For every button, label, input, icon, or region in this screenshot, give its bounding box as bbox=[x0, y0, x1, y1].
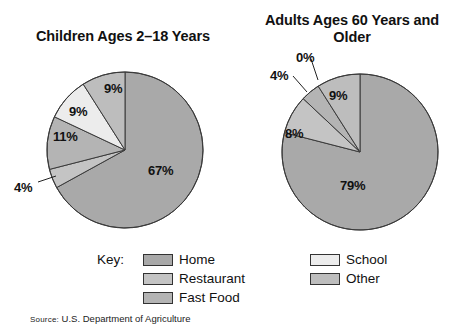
pie-slice-restaurant bbox=[49, 150, 125, 188]
legend-item-label: Restaurant bbox=[179, 271, 245, 286]
source-text: U.S. Department of Agriculture bbox=[59, 313, 190, 324]
source-note: Source: U.S. Department of Agriculture bbox=[30, 313, 190, 324]
legend-swatch-icon bbox=[143, 273, 173, 285]
pie-slice-home bbox=[282, 74, 438, 230]
legend-swatch-icon bbox=[310, 254, 340, 266]
pie-rim bbox=[47, 72, 203, 228]
legend-item-restaurant: Restaurant bbox=[143, 269, 245, 288]
pie-slice-other bbox=[318, 74, 360, 152]
slice-percent-label: 9% bbox=[69, 104, 87, 119]
chart-title-adults: Adults Ages 60 Years and Older bbox=[252, 12, 452, 46]
legend: Key: HomeRestaurantFast Food SchoolOther bbox=[0, 250, 455, 308]
slice-percent-label: 79% bbox=[340, 178, 365, 193]
legend-swatch-icon bbox=[310, 273, 340, 285]
legend-item-label: Other bbox=[346, 271, 380, 286]
legend-column-right: SchoolOther bbox=[310, 250, 387, 288]
pie-slice-home bbox=[57, 72, 203, 228]
source-prefix: Source: bbox=[30, 315, 59, 324]
legend-item-label: Fast Food bbox=[179, 290, 240, 305]
legend-item-label: School bbox=[346, 252, 387, 267]
legend-item-school: School bbox=[310, 250, 387, 269]
slice-percent-label: 11% bbox=[53, 129, 78, 144]
slice-percent-label: 8% bbox=[285, 126, 303, 141]
slice-percent-label: 0% bbox=[296, 50, 314, 65]
legend-item-home: Home bbox=[143, 250, 245, 269]
label-leader-line bbox=[293, 76, 307, 92]
legend-swatch-icon bbox=[143, 254, 173, 266]
legend-item-other: Other bbox=[310, 269, 387, 288]
slice-percent-label: 4% bbox=[270, 68, 288, 83]
pie-adults bbox=[282, 74, 438, 230]
slice-percent-label: 9% bbox=[104, 81, 122, 96]
legend-item-fast-food: Fast Food bbox=[143, 288, 245, 307]
legend-item-label: Home bbox=[179, 252, 215, 267]
legend-key-label: Key: bbox=[97, 252, 124, 267]
pie-rim bbox=[282, 74, 438, 230]
label-leader-line bbox=[38, 176, 56, 182]
legend-column-left: HomeRestaurantFast Food bbox=[143, 250, 245, 307]
legend-swatch-icon bbox=[143, 292, 173, 304]
slice-percent-label: 9% bbox=[329, 88, 347, 103]
pie-children bbox=[47, 72, 203, 228]
figure-two-pie-charts: Children Ages 2–18 Years Adults Ages 60 … bbox=[0, 0, 455, 335]
slice-percent-label: 67% bbox=[148, 163, 173, 178]
chart-title-children: Children Ages 2–18 Years bbox=[4, 28, 242, 45]
slice-percent-label: 4% bbox=[14, 180, 32, 195]
